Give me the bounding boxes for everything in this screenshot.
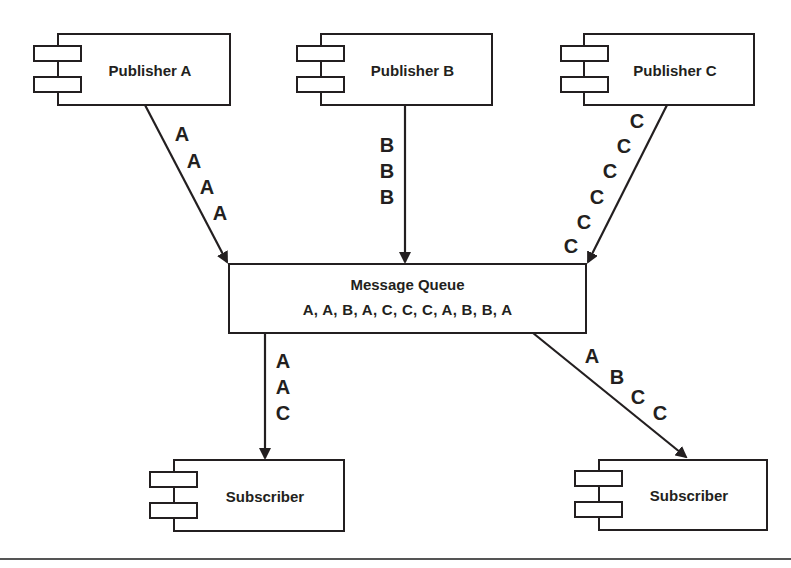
subscriber-2-component: Subscriber <box>598 459 768 531</box>
message-c: C <box>590 187 604 207</box>
message-c: C <box>653 403 667 423</box>
message-b: B <box>380 161 394 181</box>
component-port-icon <box>33 76 82 93</box>
publisher-b-component: Publisher B <box>320 33 493 106</box>
message-c: C <box>564 236 578 256</box>
message-a: A <box>213 203 227 223</box>
message-a: A <box>187 151 201 171</box>
message-a: A <box>200 177 214 197</box>
component-port-icon <box>149 502 198 519</box>
publisher-c-label: Publisher C <box>585 61 753 78</box>
component-port-icon <box>33 45 82 62</box>
component-port-icon <box>560 45 609 62</box>
publisher-a-component: Publisher A <box>57 33 231 106</box>
message-a: A <box>276 377 290 397</box>
message-queue-title: Message Queue <box>230 276 585 293</box>
message-a: A <box>175 124 189 144</box>
subscriber-2-label: Subscriber <box>600 487 766 504</box>
message-c: C <box>631 387 645 407</box>
message-c: C <box>630 111 644 131</box>
component-port-icon <box>296 76 345 93</box>
message-b: B <box>610 367 624 387</box>
component-port-icon <box>574 501 623 518</box>
arrow-queue-to-subscriber-2 <box>533 333 686 457</box>
message-queue-sequence: A, A, B, A, C, C, C, A, B, B, A <box>230 301 585 318</box>
component-port-icon <box>296 45 345 62</box>
message-a: A <box>585 346 599 366</box>
message-c: C <box>577 212 591 232</box>
component-port-icon <box>149 471 198 488</box>
bottom-divider <box>0 558 791 560</box>
message-queue-box: Message Queue A, A, B, A, C, C, C, A, B,… <box>228 263 587 334</box>
publisher-c-component: Publisher C <box>583 33 755 106</box>
message-c: C <box>617 136 631 156</box>
message-b: B <box>380 187 394 207</box>
message-a: A <box>276 351 290 371</box>
publisher-b-label: Publisher B <box>322 61 491 78</box>
publisher-a-label: Publisher A <box>59 61 229 78</box>
message-b: B <box>380 135 394 155</box>
message-c: C <box>603 161 617 181</box>
subscriber-1-component: Subscriber <box>173 459 345 532</box>
component-port-icon <box>560 76 609 93</box>
message-c: C <box>276 403 290 423</box>
subscriber-1-label: Subscriber <box>175 487 343 504</box>
component-port-icon <box>574 470 623 487</box>
arrow-publisher-c-to-queue <box>588 105 667 262</box>
pubsub-diagram: Publisher A Publisher B Publisher C A A … <box>0 0 791 568</box>
